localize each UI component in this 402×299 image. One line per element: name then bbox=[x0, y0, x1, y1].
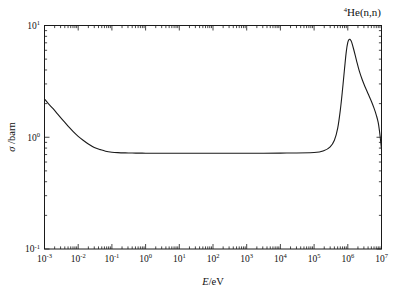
figure-container: 4He(n,n) 10-310-210-11001011021031041051… bbox=[0, 0, 402, 299]
cross-section-plot: 4He(n,n) 10-310-210-11001011021031041051… bbox=[0, 0, 402, 299]
y-axis-label: σ /barn bbox=[6, 122, 17, 152]
x-axis-label: E/eV bbox=[201, 276, 224, 287]
chart-title: 4He(n,n) bbox=[344, 6, 381, 19]
